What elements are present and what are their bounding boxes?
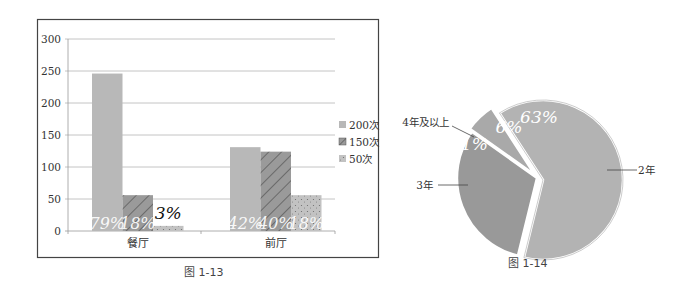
bar-50次-餐厅: [153, 226, 184, 231]
figure-caption-1-14: 图 1-14: [508, 254, 547, 270]
x-category-label: 前厅: [265, 236, 287, 250]
y-tick-label: 0: [54, 225, 61, 237]
y-tick-label: 150: [41, 129, 61, 141]
pie-labels: 63%31%6%2年3年4年及以上: [402, 107, 654, 191]
x-category-label: 餐厅: [127, 236, 149, 250]
percent-label: 3%: [155, 203, 182, 223]
y-tick-label: 250: [41, 65, 61, 77]
legend-swatch: [339, 121, 346, 128]
legend-label: 200次: [349, 119, 380, 131]
y-tick-label: 50: [48, 193, 61, 205]
pie-percent-label: 6%: [496, 117, 523, 137]
pie-slice-4年及以上: [470, 108, 535, 175]
pie-percent-label: 63%: [520, 107, 558, 127]
y-tick-label: 100: [41, 161, 61, 173]
percent-label: 18%: [120, 214, 156, 233]
legend-label: 150次: [349, 136, 380, 148]
pie-percent-label: 31%: [450, 134, 488, 154]
y-tick-label: 200: [41, 97, 61, 109]
y-tick-label: 300: [41, 33, 61, 45]
pie-category-label: 3年: [416, 179, 433, 191]
pie-slice-2年: [499, 100, 623, 260]
pie-slice-3年: [457, 132, 537, 256]
legend-label: 50次: [349, 153, 373, 165]
legend-swatch: [339, 155, 346, 162]
bar-200次-餐厅: [92, 74, 123, 231]
bar-chart: 050100150200250300 79%18%3%42%40%18% 餐厅前…: [0, 0, 400, 296]
pie-category-label: 2年: [638, 164, 655, 176]
figure-caption-1-13: 图 1-13: [184, 263, 223, 279]
pie-category-label: 4年及以上: [402, 116, 449, 128]
pie-slices: [457, 100, 623, 260]
percent-label: 18%: [288, 214, 324, 233]
legend-swatch: [339, 138, 346, 145]
